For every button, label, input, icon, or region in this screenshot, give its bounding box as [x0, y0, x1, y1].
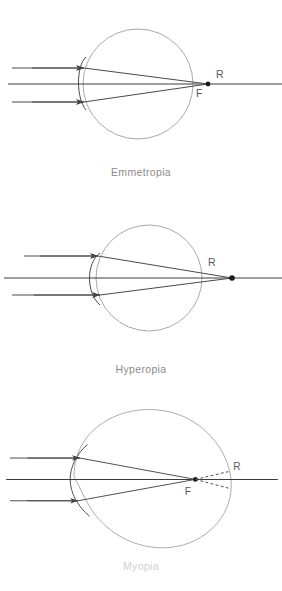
myopia-illustration: R F — [0, 394, 282, 559]
refracted-ray-lower — [32, 84, 208, 102]
focus-point-label: F — [196, 87, 202, 99]
refracted-ray-upper — [32, 68, 208, 84]
diagram-panel-emmetropia: R F Emmetropia — [0, 0, 282, 197]
focus-point-label: F — [185, 486, 191, 497]
focal-point-dot — [206, 82, 211, 87]
caption-myopia: Myopia — [0, 559, 282, 573]
eyeball-outline — [74, 410, 231, 548]
cornea-arc — [70, 444, 89, 516]
retina-point-label: R — [208, 256, 216, 268]
divergent-ray-lower — [195, 479, 228, 488]
diagram-panel-hyperopia: R Hyperopia — [0, 197, 282, 394]
divergent-ray-upper — [195, 472, 228, 480]
caption-hyperopia: Hyperopia — [0, 362, 282, 376]
refracted-ray-lower — [27, 479, 195, 500]
retina-point-label: R — [233, 461, 240, 472]
diagram-panel-myopia: R F Myopia — [0, 394, 282, 591]
emmetropia-illustration: R F — [0, 0, 282, 165]
caption-emmetropia: Emmetropia — [0, 165, 282, 179]
focal-point-dot-behind-retina — [229, 275, 235, 281]
hyperopia-illustration: R — [0, 197, 282, 362]
retina-point-label: R — [216, 68, 224, 80]
refracted-ray-upper — [40, 256, 232, 278]
refracted-ray-upper — [27, 458, 195, 479]
